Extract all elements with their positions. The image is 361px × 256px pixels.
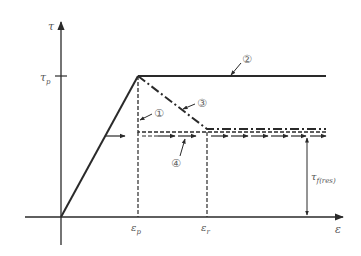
leader-1: [140, 114, 152, 120]
x-axis-label: ε: [335, 224, 341, 235]
tau-p-label: τp: [40, 72, 51, 86]
residual-subscript: f(res): [317, 177, 336, 185]
curve-1-brittle: [138, 76, 326, 132]
curve-1-marker-text: ①: [154, 107, 164, 120]
y-axis-label: τ: [48, 21, 54, 32]
tau-p-subscript: p: [46, 78, 50, 86]
y-axis-label-text: τ: [48, 20, 54, 33]
curve-3-marker-text: ③: [197, 97, 207, 110]
diagram-canvas: [0, 0, 361, 256]
eps-p-subscript: p: [136, 228, 140, 236]
leader-4: [180, 139, 185, 156]
eps-p-label: εp: [131, 223, 141, 236]
curve-1-marker: ①: [154, 108, 164, 119]
stress-strain-diagram: τ τp εp εr ε τf(res) ① ② ③ ④: [0, 0, 361, 256]
residual-strength-label: τf(res): [311, 172, 336, 185]
eps-r-label: εr: [201, 223, 210, 236]
x-axis-label-text: ε: [335, 223, 341, 236]
leader-3: [183, 104, 195, 109]
curve-4-marker-text: ④: [171, 157, 181, 170]
curve-2-marker: ②: [242, 54, 252, 65]
curve-3-softening: [138, 76, 326, 129]
leader-2: [231, 63, 241, 75]
curve-3-marker: ③: [197, 98, 207, 109]
eps-r-subscript: r: [206, 228, 209, 236]
curve-2-marker-text: ②: [242, 53, 252, 66]
curve-4-marker: ④: [171, 158, 181, 169]
elastic-branch: [61, 76, 138, 217]
